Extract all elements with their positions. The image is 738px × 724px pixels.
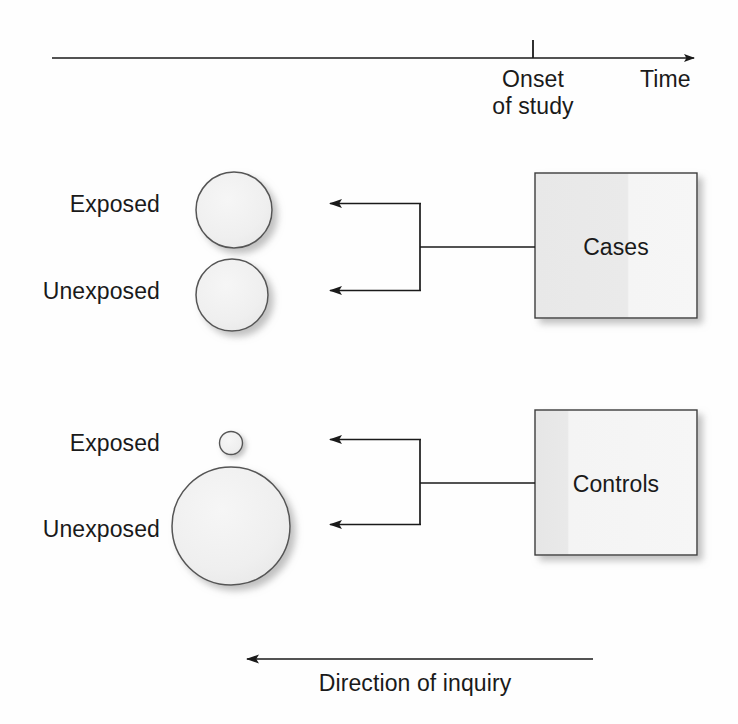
- controls-bracket: [330, 439, 535, 525]
- controls-unexposed-label: Unexposed: [0, 516, 160, 543]
- diagram-vector-layer: [0, 0, 738, 724]
- timeline-axis: [52, 40, 694, 58]
- timeline-onset-line1: Onset: [502, 66, 564, 92]
- cases-unexposed-label: Unexposed: [0, 278, 160, 305]
- controls-unexposed-circle: [172, 467, 290, 585]
- case-control-study-diagram: Onset of study Time Exposed Unexposed Ex…: [0, 0, 738, 724]
- direction-of-inquiry-label: Direction of inquiry: [235, 670, 595, 697]
- timeline-onset-line2: of study: [492, 93, 573, 119]
- controls-box-label: Controls: [535, 471, 697, 498]
- controls-exposed-circle: [220, 432, 243, 455]
- cases-exposed-label: Exposed: [0, 191, 160, 218]
- cases-unexposed-circle: [196, 259, 268, 331]
- timeline-onset-label: Onset of study: [443, 66, 623, 120]
- controls-exposed-label: Exposed: [0, 430, 160, 457]
- cases-exposed-circle: [196, 172, 272, 248]
- timeline-axis-label: Time: [640, 66, 691, 93]
- cases-bracket: [330, 203, 535, 291]
- cases-box-label: Cases: [535, 234, 697, 261]
